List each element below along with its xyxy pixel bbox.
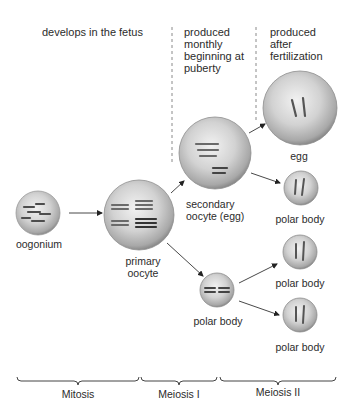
stage-label-meiosis-2: Meiosis II — [256, 386, 300, 398]
label-primary-oocyte: primary oocyte — [125, 255, 160, 279]
brace-meiosis-1 — [141, 377, 217, 385]
stage-label-meiosis-1: Meiosis I — [158, 388, 199, 400]
label-polar-body-2: polar body — [275, 277, 324, 289]
brace-meiosis-2 — [220, 377, 336, 385]
arrow-primary-to-polar — [167, 243, 203, 276]
cell-polar-body-2 — [283, 235, 317, 269]
cell-primary-oocyte — [104, 180, 174, 250]
arrow-secondary-to-polar — [251, 173, 280, 183]
cell-polar-body-3 — [283, 298, 317, 332]
cell-polar-body-middle — [200, 273, 234, 307]
header-develops-in-fetus: develops in the fetus — [42, 26, 143, 38]
stage-label-mitosis: Mitosis — [62, 388, 95, 400]
label-egg: egg — [290, 150, 308, 162]
header-produced-monthly-puberty: produced monthly beginning at puberty — [184, 26, 244, 74]
label-polar-body-1: polar body — [275, 213, 324, 225]
cell-secondary-oocyte — [179, 117, 251, 189]
arrow-polar-to-polar-lower — [239, 301, 279, 315]
cell-egg — [263, 71, 337, 145]
cell-polar-body-1 — [284, 171, 318, 205]
header-produced-after-fertilization: produced after fertilization — [270, 26, 323, 62]
label-oogonium: oogonium — [16, 238, 62, 250]
brace-mitosis — [17, 377, 139, 385]
arrow-polar-to-polar-upper — [239, 264, 277, 283]
arrow-secondary-to-egg — [249, 124, 265, 133]
label-polar-body-3: polar body — [275, 341, 324, 353]
cell-oogonium — [16, 191, 60, 235]
label-secondary-oocyte: secondary oocyte (egg) — [186, 198, 244, 222]
label-polar-body-middle: polar body — [193, 315, 242, 327]
arrow-primary-to-secondary — [171, 181, 184, 193]
oogenesis-diagram — [0, 0, 353, 418]
